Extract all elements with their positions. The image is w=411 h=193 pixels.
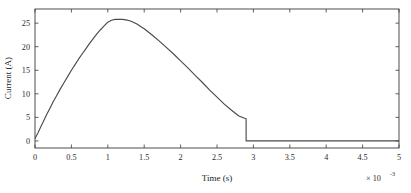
figure-container: 00.511.522.533.544.55 0510152025 Time (s…: [0, 0, 411, 193]
x-axis-label: Time (s): [202, 173, 232, 183]
y-axis-tick-labels: 0510152025: [22, 19, 30, 146]
y-tick-label: 20: [22, 43, 30, 52]
x-axis-tick-labels: 00.511.522.533.544.55: [33, 153, 401, 162]
y-axis-label: Current (A): [3, 57, 13, 99]
x-tick-label: 1.5: [139, 153, 149, 162]
plot-background: [35, 9, 399, 148]
x-tick-label: 4: [324, 153, 328, 162]
x-tick-label: 2: [179, 153, 183, 162]
x-tick-label: 4.5: [357, 153, 367, 162]
x-tick-label: 1: [106, 153, 110, 162]
y-tick-label: 0: [26, 137, 30, 146]
current-vs-time-plot: 00.511.522.533.544.55 0510152025 Time (s…: [0, 0, 411, 193]
y-tick-label: 10: [22, 90, 30, 99]
x-axis-exponent-value: -3: [390, 171, 395, 177]
y-tick-label: 5: [26, 113, 30, 122]
x-tick-label: 0: [33, 153, 37, 162]
y-tick-label: 25: [22, 19, 30, 28]
x-axis-exponent-multiplier: × 10: [366, 174, 381, 183]
y-tick-label: 15: [22, 66, 30, 75]
x-tick-label: 2.5: [212, 153, 222, 162]
x-tick-label: 0.5: [66, 153, 76, 162]
x-tick-label: 3: [251, 153, 255, 162]
x-tick-label: 5: [397, 153, 401, 162]
x-tick-label: 3.5: [285, 153, 295, 162]
